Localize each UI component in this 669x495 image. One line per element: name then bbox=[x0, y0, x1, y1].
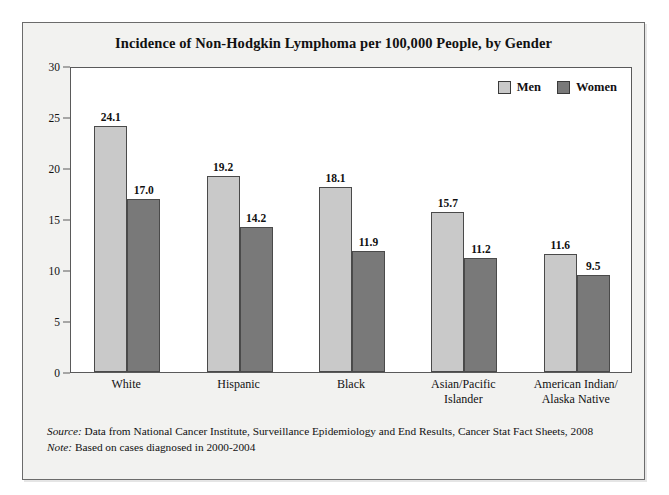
y-axis-tick-mark bbox=[63, 67, 70, 68]
bar-value-label: 15.7 bbox=[438, 197, 458, 209]
y-axis-tick-mark bbox=[63, 271, 70, 272]
bar-value-label: 9.5 bbox=[586, 260, 600, 272]
x-axis-label: White bbox=[70, 377, 182, 392]
y-axis-tick-label: 30 bbox=[49, 61, 61, 73]
x-axis-label-line: White bbox=[70, 377, 182, 392]
x-axis-labels: WhiteHispanicBlackAsian/PacificIslanderA… bbox=[70, 377, 632, 421]
note-label: Note: bbox=[47, 441, 72, 453]
x-axis-label-line: Asian/Pacific bbox=[407, 377, 519, 392]
y-axis-tick-label: 15 bbox=[49, 214, 61, 226]
bar-men-4[interactable]: 15.7 bbox=[431, 212, 464, 372]
bar-rect[interactable] bbox=[127, 199, 160, 372]
legend-label-women: Women bbox=[576, 80, 617, 95]
figure-container: Incidence of Non-Hodgkin Lymphoma per 10… bbox=[22, 22, 645, 480]
bar-group: 11.69.5 bbox=[544, 254, 610, 372]
bar-women-5[interactable]: 9.5 bbox=[577, 275, 610, 372]
y-axis-tick-mark bbox=[63, 220, 70, 221]
bar-rect[interactable] bbox=[577, 275, 610, 372]
x-axis-label: Hispanic bbox=[182, 377, 294, 392]
legend-swatch-men bbox=[498, 81, 511, 94]
bar-men-2[interactable]: 19.2 bbox=[207, 176, 240, 372]
bar-men-3[interactable]: 18.1 bbox=[319, 187, 352, 372]
source-text: Data from National Cancer Institute, Sur… bbox=[85, 425, 594, 437]
x-axis-label: Asian/PacificIslander bbox=[407, 377, 519, 407]
x-axis-label-line: Islander bbox=[407, 392, 519, 407]
page-title: Incidence of Non-Hodgkin Lymphoma per 10… bbox=[23, 35, 644, 52]
bar-men-5[interactable]: 11.6 bbox=[544, 254, 577, 372]
bar-rect[interactable] bbox=[544, 254, 577, 372]
y-axis-tick-label: 25 bbox=[49, 112, 61, 124]
bar-group: 15.711.2 bbox=[431, 212, 497, 372]
bar-group: 24.117.0 bbox=[94, 126, 160, 372]
chart-legend: MenWomen bbox=[498, 80, 617, 95]
bar-rect[interactable] bbox=[352, 251, 385, 372]
legend-swatch-women bbox=[557, 81, 570, 94]
bar-value-label: 17.0 bbox=[134, 184, 154, 196]
bar-group: 19.214.2 bbox=[207, 176, 273, 372]
bar-value-label: 11.9 bbox=[359, 236, 379, 248]
source-label: Source: bbox=[47, 425, 82, 437]
x-axis-label: Black bbox=[295, 377, 407, 392]
y-axis-tick-mark bbox=[63, 169, 70, 170]
bar-value-label: 19.2 bbox=[213, 161, 233, 173]
bar-rect[interactable] bbox=[94, 126, 127, 372]
x-axis-label: American Indian/Alaska Native bbox=[520, 377, 632, 407]
note-line: Note: Based on cases diagnosed in 2000-2… bbox=[47, 439, 628, 455]
bar-value-label: 24.1 bbox=[101, 111, 121, 123]
bar-group: 18.111.9 bbox=[319, 187, 385, 372]
source-line: Source: Data from National Cancer Instit… bbox=[47, 423, 628, 439]
x-axis-label-line: Hispanic bbox=[182, 377, 294, 392]
legend-label-men: Men bbox=[517, 80, 541, 95]
y-axis: 302520151050 bbox=[23, 67, 70, 373]
y-axis-tick-mark bbox=[63, 373, 70, 374]
bars-layer: 24.117.019.214.218.111.915.711.211.69.5 bbox=[71, 68, 631, 372]
bar-value-label: 11.6 bbox=[551, 239, 571, 251]
bar-women-3[interactable]: 11.9 bbox=[352, 251, 385, 372]
y-axis-tick-label: 20 bbox=[49, 163, 61, 175]
bar-rect[interactable] bbox=[431, 212, 464, 372]
x-axis-label-line: American Indian/ bbox=[520, 377, 632, 392]
bar-rect[interactable] bbox=[319, 187, 352, 372]
bar-rect[interactable] bbox=[207, 176, 240, 372]
bar-rect[interactable] bbox=[240, 227, 273, 372]
bar-value-label: 18.1 bbox=[325, 172, 345, 184]
y-axis-tick-mark bbox=[63, 322, 70, 323]
legend-item-men: Men bbox=[498, 80, 541, 95]
bar-women-1[interactable]: 17.0 bbox=[127, 199, 160, 372]
bar-rect[interactable] bbox=[464, 258, 497, 372]
bar-women-4[interactable]: 11.2 bbox=[464, 258, 497, 372]
plot-area: MenWomen 24.117.019.214.218.111.915.711.… bbox=[70, 67, 632, 373]
y-axis-tick-mark bbox=[63, 118, 70, 119]
y-axis-tick-label: 10 bbox=[49, 265, 61, 277]
x-axis-label-line: Black bbox=[295, 377, 407, 392]
y-axis-tick-label: 0 bbox=[54, 367, 60, 379]
note-text: Based on cases diagnosed in 2000-2004 bbox=[75, 441, 255, 453]
legend-item-women: Women bbox=[557, 80, 617, 95]
bar-value-label: 14.2 bbox=[246, 212, 266, 224]
footnotes: Source: Data from National Cancer Instit… bbox=[47, 423, 628, 455]
bar-men-1[interactable]: 24.1 bbox=[94, 126, 127, 372]
bar-women-2[interactable]: 14.2 bbox=[240, 227, 273, 372]
bar-value-label: 11.2 bbox=[471, 243, 491, 255]
y-axis-tick-label: 5 bbox=[54, 316, 60, 328]
x-axis-label-line: Alaska Native bbox=[520, 392, 632, 407]
